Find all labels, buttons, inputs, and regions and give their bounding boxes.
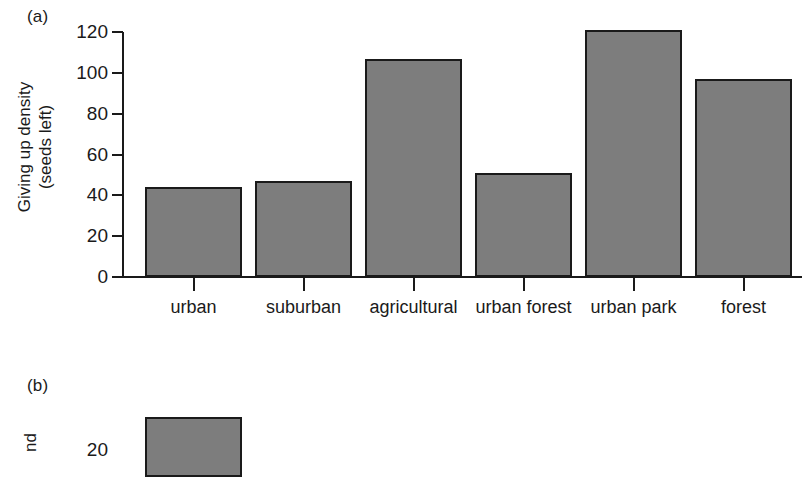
y-tick-label-20: 20 (60, 226, 108, 245)
y-tick-label-80: 80 (60, 104, 108, 123)
x-label-urban-park: urban park (590, 296, 676, 318)
bar-suburban (255, 181, 352, 277)
bar-agricultural (365, 59, 462, 277)
x-label-agricultural: agricultural (369, 296, 457, 318)
y-tick-100 (112, 72, 123, 74)
y-tick-label-120: 120 (60, 22, 108, 41)
y-tick-0 (112, 276, 123, 278)
y-tick-label-0: 0 (60, 267, 108, 286)
y-tick-label-40: 40 (60, 185, 108, 204)
x-tick-urban-forest (523, 278, 525, 291)
panel-a-tag: (a) (27, 7, 48, 27)
y-tick-80 (112, 113, 123, 115)
x-tick-forest (743, 278, 745, 291)
x-tick-suburban (303, 278, 305, 291)
y-tick-40 (112, 194, 123, 196)
y-tick-label-wrap-20: 20 (52, 226, 108, 245)
bar-urban (145, 187, 242, 277)
panel-b-y-axis-title-partial: nd (20, 433, 41, 452)
x-tick-urban-park (633, 278, 635, 291)
x-label-urban-forest: urban forest (475, 296, 571, 318)
panel-b-bar-1 (145, 417, 242, 477)
y-tick-label-100: 100 (60, 63, 108, 82)
x-label-urban: urban (170, 296, 216, 318)
y-tick-label-60: 60 (60, 145, 108, 164)
y-tick-label-wrap-80: 80 (52, 104, 108, 123)
bar-urban-park (585, 30, 682, 277)
y-tick-120 (112, 31, 123, 33)
bar-urban-forest (475, 173, 572, 277)
y-tick-label-wrap-100: 100 (52, 63, 108, 82)
panel-a: (a) Giving up density (seeds left) 02040… (0, 0, 812, 330)
panel-b-tag: (b) (27, 376, 48, 396)
panel-b-y-tick-label-partial: 20 (52, 440, 108, 459)
y-tick-label-wrap-120: 120 (52, 22, 108, 41)
y-tick-20 (112, 235, 123, 237)
panel-a-y-axis-title: Giving up density (seeds left) (14, 42, 56, 252)
x-tick-agricultural (413, 278, 415, 291)
y-tick-label-wrap-0: 0 (52, 267, 108, 286)
y-tick-60 (112, 154, 123, 156)
y-tick-label-wrap-60: 60 (52, 145, 108, 164)
x-label-suburban: suburban (266, 296, 341, 318)
panel-b: (b) nd 20 (0, 330, 812, 452)
x-label-forest: forest (721, 296, 766, 318)
x-tick-urban (193, 278, 195, 291)
y-tick-label-wrap-40: 40 (52, 185, 108, 204)
y-axis-title-line1: Giving up density (14, 42, 35, 252)
bar-forest (695, 79, 792, 277)
